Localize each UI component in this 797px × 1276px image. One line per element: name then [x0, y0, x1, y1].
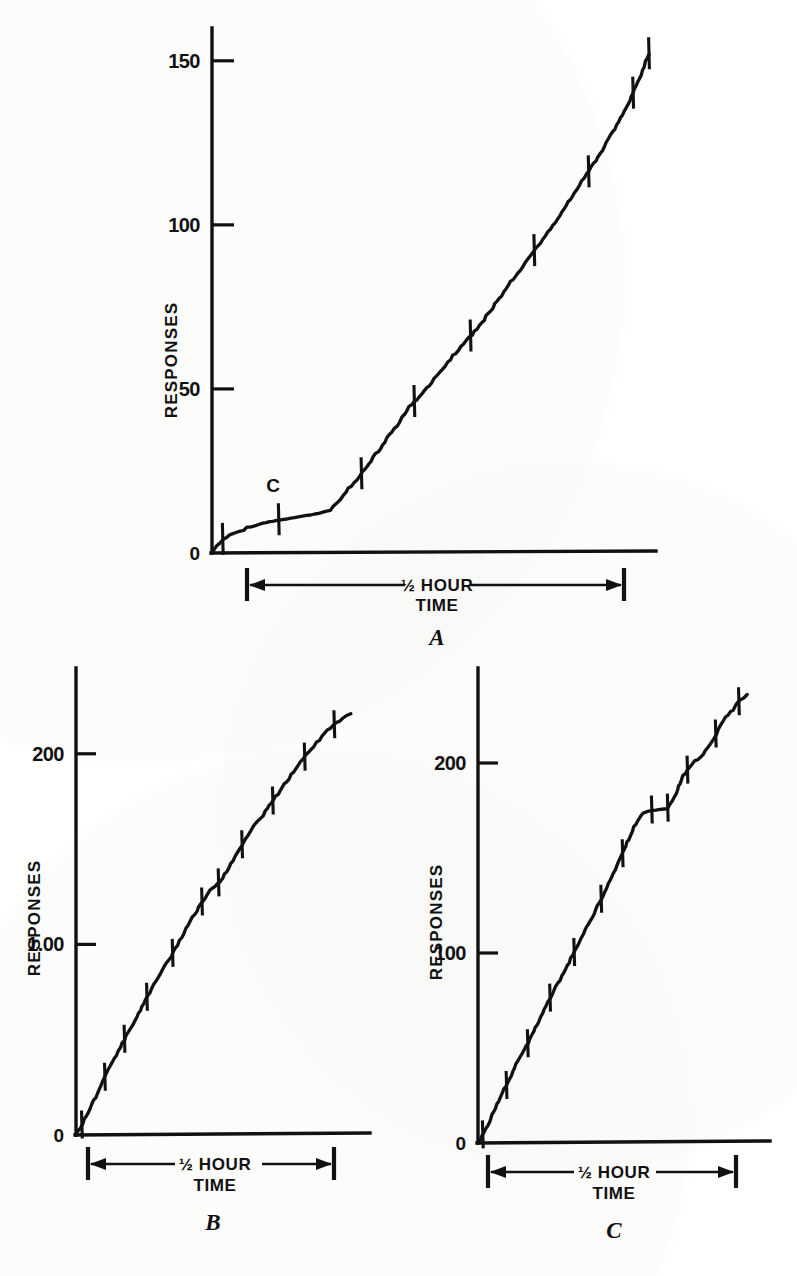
y-tick-label-B-200: 200	[32, 743, 64, 765]
y-tick-label-A-150: 150	[168, 50, 200, 72]
scale-bar-caption-time-c: TIME	[592, 1184, 635, 1203]
scale-bar-caption-hour-a: ½ HOUR	[401, 576, 474, 595]
scale-bar-arrow-left-c	[490, 1166, 506, 1178]
y-tick-label-B-0: 0	[53, 1125, 64, 1146]
reinforcement-pip-C-2	[527, 1029, 528, 1057]
scale-bar-caption-hour-b: ½ HOUR	[179, 1155, 252, 1174]
reinforcement-pip-C-5	[601, 885, 602, 913]
scale-bar-arrow-left-b	[90, 1158, 106, 1170]
panel-a-yticks	[212, 61, 234, 389]
reinforcement-pip-A-0	[222, 523, 223, 555]
clipped-caption-row: of the effect of the added stimulus on t…	[0, 1260, 797, 1276]
reinforcement-pip-B-7	[242, 830, 243, 858]
panel-b-axes	[75, 668, 370, 1135]
reinforcement-pip-C-9	[687, 756, 688, 784]
clipped-caption-text: of the effect of the added stimulus on t…	[18, 1260, 326, 1265]
panel-b: 01.00200 RESPONSES ½ HOUR TIME B	[0, 650, 400, 1276]
reinforcement-pip-C-7	[651, 796, 652, 824]
scale-bar-arrow-left-a	[249, 579, 265, 591]
reinforcement-pip-B-9	[304, 743, 305, 771]
reinforcement-pip-B-4	[172, 939, 173, 967]
panel-b-record	[76, 710, 351, 1138]
reinforcement-pip-B-1	[105, 1063, 106, 1091]
cumulative-curve-b	[76, 714, 351, 1135]
reinforcement-pip-B-5	[202, 887, 203, 915]
reinforcement-pip-C-1	[506, 1071, 507, 1099]
panel-a: 050100150 RESPONSES C ½ HOUR TIME A	[0, 0, 797, 655]
reinforcement-pip-C-11	[738, 687, 739, 715]
panel-c: 0100200 RESPONSES ½ HOUR TIME C	[398, 650, 797, 1276]
scale-bar-c: ½ HOUR TIME	[488, 1155, 736, 1203]
x-axis-line-a	[211, 551, 656, 553]
panel-c-record	[478, 687, 747, 1148]
reinforcement-pip-C-3	[550, 984, 551, 1012]
reinforcement-pip-A-3	[414, 385, 415, 417]
panel-a-svg: 050100150 RESPONSES C ½ HOUR TIME A	[0, 0, 797, 655]
reinforcement-pip-A-6	[588, 155, 589, 187]
scale-bar-arrow-right-a	[606, 579, 622, 591]
reinforcement-pip-C-0	[482, 1120, 483, 1148]
scale-bar-caption-time-b: TIME	[193, 1176, 236, 1195]
y-tick-label-A-100: 100	[168, 214, 200, 236]
x-axis-line-c	[477, 1141, 770, 1143]
panel-c-yticks	[478, 763, 498, 953]
panel-c-axes	[477, 668, 770, 1143]
reinforcement-pip-A-5	[534, 234, 535, 266]
panel-b-svg: 01.00200 RESPONSES ½ HOUR TIME B	[0, 650, 400, 1276]
figure-page: 050100150 RESPONSES C ½ HOUR TIME A	[0, 0, 797, 1276]
scale-bar-arrow-right-b	[316, 1158, 332, 1170]
reinforcement-pip-C-10	[715, 720, 716, 748]
scale-bar-caption-time-a: TIME	[415, 596, 458, 615]
reinforcement-pip-B-8	[272, 786, 273, 814]
y-axis-title-a: RESPONSES	[162, 302, 181, 419]
reinforcement-pip-B-2	[124, 1025, 125, 1053]
y-axis-title-b: RESPONSES	[25, 860, 44, 977]
annotation-c-marker-a: C	[266, 475, 280, 496]
reinforcement-pip-B-3	[147, 983, 148, 1011]
scale-bar-b: ½ HOUR TIME	[88, 1147, 334, 1195]
reinforcement-pip-B-10	[334, 710, 335, 738]
reinforcement-pip-B-0	[81, 1110, 82, 1138]
panel-b-yticks	[76, 754, 96, 945]
y-tick-label-C-0: 0	[455, 1133, 466, 1154]
scale-bar-a: ½ HOUR TIME	[247, 568, 624, 615]
panel-c-svg: 0100200 RESPONSES ½ HOUR TIME C	[398, 650, 797, 1276]
reinforcement-pips-a	[222, 37, 649, 555]
reinforcement-pip-A-2	[361, 457, 362, 489]
x-axis-line-b	[75, 1133, 370, 1135]
reinforcement-pip-A-7	[633, 77, 634, 109]
y-axis-title-c: RESPONSES	[427, 864, 446, 981]
panel-letter-c: C	[606, 1218, 622, 1243]
scale-bar-arrow-right-c	[718, 1166, 734, 1178]
reinforcement-pip-C-4	[574, 938, 575, 966]
panel-letter-a: A	[427, 625, 444, 650]
reinforcement-pip-A-8	[649, 37, 650, 69]
scale-bar-caption-hour-c: ½ HOUR	[578, 1163, 651, 1182]
reinforcement-pip-B-6	[218, 868, 219, 896]
cumulative-curve-c	[478, 695, 747, 1144]
panel-letter-b: B	[204, 1210, 220, 1235]
reinforcement-pip-A-4	[470, 319, 471, 351]
reinforcement-pips-b	[81, 710, 334, 1138]
y-tick-label-C-200: 200	[434, 752, 466, 774]
reinforcement-pip-A-1	[278, 503, 279, 535]
y-tick-label-A-50: 50	[179, 378, 201, 400]
reinforcement-pip-C-8	[667, 794, 668, 822]
reinforcement-pip-C-6	[622, 839, 623, 867]
y-tick-label-A-0: 0	[189, 543, 200, 564]
